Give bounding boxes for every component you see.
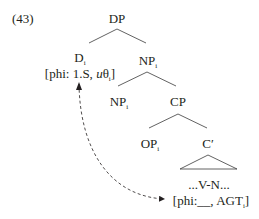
edge-np-np — [118, 72, 147, 86]
node-op: OPi — [141, 137, 160, 153]
d-features-suffix: ] — [111, 66, 115, 81]
node-cp: CP — [170, 95, 186, 108]
node-op-label: OP — [141, 136, 158, 151]
edge-cp-cbar — [178, 114, 207, 128]
vn-features-prefix: [phi:__, AGT — [173, 193, 243, 208]
node-np-upper-index: i — [155, 62, 157, 70]
edge-cp-op — [149, 114, 178, 128]
node-d-features: [phi: 1.S, uθi] — [45, 67, 115, 83]
vn-features-suffix: ] — [245, 193, 249, 208]
d-features-prefix: [phi: 1.S, — [45, 66, 96, 81]
node-np-lower-label: NP — [110, 94, 127, 109]
node-np-upper: NPi — [139, 54, 158, 70]
node-vn-features: [phi:__, AGTi] — [173, 194, 249, 210]
node-cbar: C′ — [202, 137, 214, 150]
node-d-label: D — [74, 50, 83, 65]
edge-dp-np — [117, 29, 146, 43]
arrowhead-up-icon — [76, 82, 82, 90]
node-op-index: i — [157, 145, 159, 153]
node-np-upper-label: NP — [139, 53, 156, 68]
node-dp: DP — [109, 12, 126, 25]
node-vn: ...V-N... — [188, 178, 229, 191]
example-number: (43) — [12, 12, 34, 25]
cbar-triangle — [180, 155, 237, 169]
node-np-lower: NPi — [110, 95, 129, 111]
node-d: Di — [74, 51, 85, 67]
edge-np-cp — [147, 72, 176, 86]
syntax-tree-diagram: (43) DP Di [phi: 1.S, uθi] NPi NPi CP OP… — [0, 0, 259, 219]
node-np-lower-index: i — [126, 103, 128, 111]
edge-dp-d — [89, 29, 117, 43]
